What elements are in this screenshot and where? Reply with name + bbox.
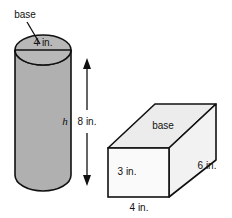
prism-base-label: base xyxy=(152,120,174,131)
cylinder-diameter-label: 4 in. xyxy=(34,37,53,48)
dimension-arrowhead-down xyxy=(83,175,91,186)
height-dimension-label: 8 in. xyxy=(78,116,97,127)
geometry-figure-canvas: base 4 in. h 8 in. xyxy=(0,0,232,218)
prism-depth-label: 6 in. xyxy=(198,160,217,171)
prism-height-label: 3 in. xyxy=(118,166,137,177)
height-dimension-group: 8 in. xyxy=(78,58,97,186)
figure-svg: base 4 in. h 8 in. xyxy=(0,0,232,218)
dimension-arrowhead-up xyxy=(83,58,91,69)
cylinder-base-label: base xyxy=(14,9,36,20)
cylinder-height-variable-label: h xyxy=(62,115,68,127)
rectangular-prism-group: base 3 in. 4 in. 6 in. xyxy=(108,104,216,213)
prism-width-label: 4 in. xyxy=(130,202,149,213)
cylinder-group: base 4 in. h xyxy=(14,9,71,191)
